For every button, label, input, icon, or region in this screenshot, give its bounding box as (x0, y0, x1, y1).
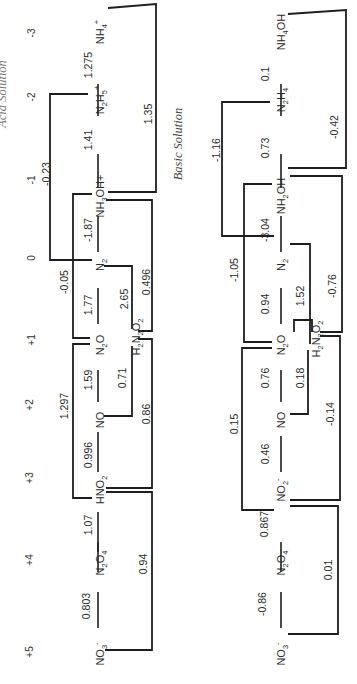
potential-value: -0.23 (41, 162, 52, 186)
oxidation-state-label: -2 (27, 93, 37, 102)
oxidation-state-label: +4 (25, 554, 35, 565)
species-no2: NO2- (276, 478, 287, 501)
species-nh2oh: NH2OH (276, 178, 287, 215)
species-h2n2o2: H2N2O2 (131, 319, 142, 356)
potential-value: 2.65 (119, 289, 130, 309)
species-n2h4: N2H4 (276, 88, 287, 112)
oxidation-state-label: -1 (27, 176, 37, 185)
potential-value: 0.803 (81, 593, 92, 619)
potential-value: 0.86 (141, 404, 152, 424)
potential-value: 1.77 (83, 295, 94, 315)
potential-value: -0.76 (327, 274, 338, 298)
potential-value: -1.05 (229, 258, 240, 282)
potential-value: -0.86 (257, 592, 268, 616)
potential-value: 1.297 (59, 393, 70, 419)
connector-lines (0, 0, 357, 684)
potential-value: 1.275 (83, 52, 94, 78)
oxidation-state-label: -3 (27, 29, 37, 38)
oxidation-state-label: +3 (25, 472, 35, 483)
potential-value: 0.76 (260, 368, 271, 388)
oxidation-state-label: +2 (25, 399, 35, 410)
potential-value: -1.16 (211, 138, 222, 162)
potential-value: 0.867 (259, 511, 270, 537)
species-n2o4: N2O4 (95, 551, 106, 576)
potential-value: 0.1 (260, 67, 271, 82)
species-no3: NO3- (95, 642, 106, 665)
potential-value: 0.18 (295, 368, 306, 388)
potential-value: 0.15 (229, 414, 240, 434)
species-no3: NO3- (276, 642, 287, 665)
species-nh4oh: NH4OH (276, 14, 287, 51)
oxidation-state-label: 0 (27, 255, 37, 261)
species-hno2: HNO2 (95, 476, 106, 505)
potential-value: 1.41 (83, 130, 94, 150)
species-nh4: NH4+ (95, 20, 106, 44)
species-no: NO (95, 412, 106, 429)
species-n2: N2 (276, 259, 287, 271)
species-n2o: N2O (276, 335, 287, 356)
potential-value: 0.996 (83, 442, 94, 468)
potential-value: 1.07 (83, 515, 94, 535)
oxidation-state-label: +1 (27, 334, 37, 345)
species-n2o: N2O (95, 335, 106, 356)
oxidation-state-label: +5 (25, 646, 35, 657)
potential-value: 1.52 (295, 286, 306, 306)
species-nh3oh: NH3OH+ (95, 175, 106, 218)
potential-value: -0.05 (59, 270, 70, 294)
acid-solution-title: Acid Solution (0, 60, 10, 128)
species-n2: N2 (95, 259, 106, 271)
species-n2o4: N2O4 (276, 551, 287, 576)
potential-value: 0.496 (141, 269, 152, 295)
potential-value: 1.35 (143, 104, 154, 124)
potential-value: 0.71 (117, 368, 128, 388)
potential-value: -3.04 (260, 218, 271, 242)
potential-value: -0.42 (329, 115, 340, 139)
potential-value: 0.94 (138, 554, 149, 574)
latimer-diagram: Acid Solution +5 +4 +3 +2 +1 0 -1 -2 -3 … (0, 0, 357, 684)
potential-value: 0.01 (323, 560, 334, 580)
potential-value: 1.59 (83, 370, 94, 390)
basic-solution-title: Basic Solution (171, 108, 186, 181)
species-no: NO (276, 412, 287, 429)
species-h2n2o2: H2N2O2 (311, 321, 322, 358)
potential-value: 0.73 (260, 138, 271, 158)
potential-value: -1.87 (83, 218, 94, 242)
potential-value: 0.46 (260, 444, 271, 464)
species-n2h5: N2H5+ (95, 86, 106, 115)
potential-value: -0.14 (325, 402, 336, 426)
potential-value: 0.94 (260, 294, 271, 314)
